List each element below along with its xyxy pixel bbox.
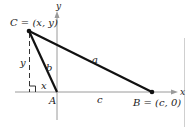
side-c-label: c [97, 94, 103, 105]
x-axis-label: x [180, 87, 185, 97]
x-axis-arrow-icon [171, 90, 178, 95]
triangle-diagram: y x C = (x, y) A B = (c, 0) a b c y x [0, 0, 190, 127]
right-angle-mark [30, 86, 36, 92]
point-c-dot [27, 29, 32, 34]
point-a-label: A [48, 95, 56, 106]
side-b-label: b [46, 62, 52, 73]
point-b-dot [150, 90, 155, 95]
y-axis-label: y [55, 1, 62, 11]
height-label: y [19, 57, 26, 68]
point-c-label: C = (x, y) [10, 17, 58, 28]
point-b-label: B = (c, 0) [132, 97, 181, 108]
side-a-label: a [92, 54, 98, 65]
foot-label: x [41, 80, 47, 91]
